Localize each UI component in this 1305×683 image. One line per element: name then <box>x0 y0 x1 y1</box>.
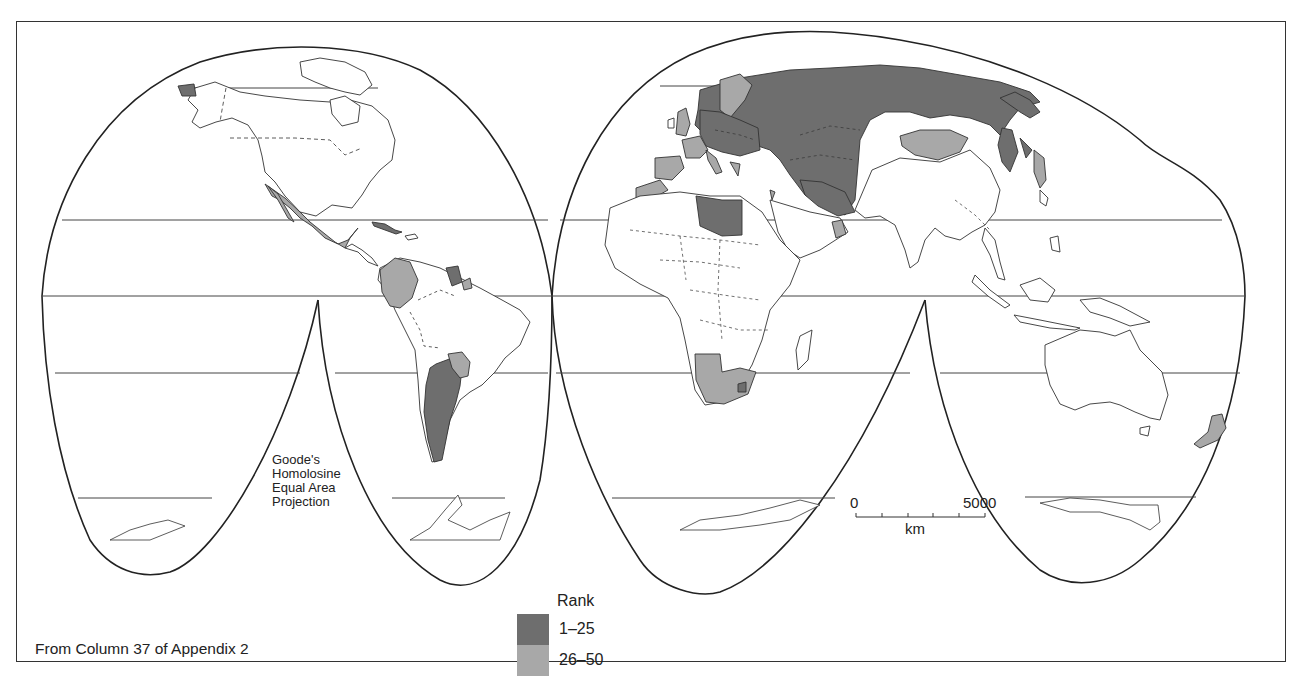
projection-label-line-3: Equal Area <box>272 481 341 495</box>
legend-title: Rank <box>557 592 594 610</box>
projection-label: Goode's Homolosine Equal Area Projection <box>272 453 341 509</box>
legend-item-rank-1-25: 1–25 <box>517 614 637 647</box>
legend-swatch-dark <box>517 614 549 645</box>
south-america <box>378 258 530 462</box>
scale-start-label: 0 <box>850 494 858 511</box>
scale-end-label: 5000 <box>963 494 996 511</box>
projection-label-line-1: Goode's <box>272 453 341 467</box>
world-map <box>0 0 1305 683</box>
legend-swatch-light <box>517 645 549 676</box>
north-america <box>178 58 418 266</box>
scale-bar: 0 5000 km <box>850 494 1010 540</box>
legend-item-rank-26-50: 26–50 <box>517 645 637 678</box>
source-note: From Column 37 of Appendix 2 <box>35 640 249 658</box>
oceania <box>972 190 1226 448</box>
projection-label-line-2: Homolosine <box>272 467 341 481</box>
latitude-lines <box>42 86 1245 498</box>
legend-label: 26–50 <box>559 651 604 669</box>
projection-label-line-4: Projection <box>272 495 341 509</box>
scale-unit-label: km <box>905 520 925 537</box>
legend-label: 1–25 <box>559 620 595 638</box>
